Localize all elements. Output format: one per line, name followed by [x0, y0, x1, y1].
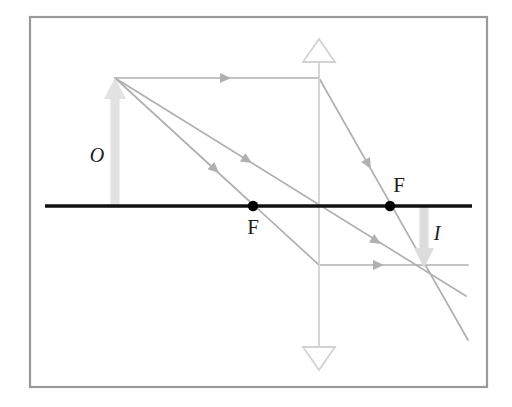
image-arrow [414, 206, 434, 268]
figure-border [30, 17, 487, 387]
object-label: O [90, 144, 104, 166]
ray-arrowhead-icon [369, 234, 384, 248]
focal-point-left [248, 201, 258, 211]
ray-arrowhead-icon [361, 157, 375, 172]
ray-arrowhead-icon [240, 153, 255, 167]
ray-parallel-incident [115, 73, 319, 83]
ray-arrowhead-icon [373, 260, 384, 270]
focal-point-left-label: F [247, 215, 259, 239]
optics-ray-diagram: O F F I [0, 0, 512, 407]
object-arrow [104, 78, 126, 208]
ray-through-center [115, 78, 466, 296]
focal-point-right-label: F [393, 173, 405, 197]
image-label: I [433, 222, 442, 244]
ray-through-focal-refracted [319, 260, 468, 270]
focal-point-right [385, 201, 395, 211]
ray-arrowhead-icon [220, 73, 231, 83]
object-arrow-shaft [111, 96, 120, 208]
ray-diagram-figure: O F F I [0, 0, 512, 407]
ray-through-focal-incident [115, 78, 319, 265]
lens-arrowhead-top-icon [303, 39, 335, 62]
lens-arrowhead-bottom-icon [303, 347, 335, 370]
object-arrow-head-icon [104, 78, 126, 99]
image-arrow-shaft [420, 206, 429, 249]
